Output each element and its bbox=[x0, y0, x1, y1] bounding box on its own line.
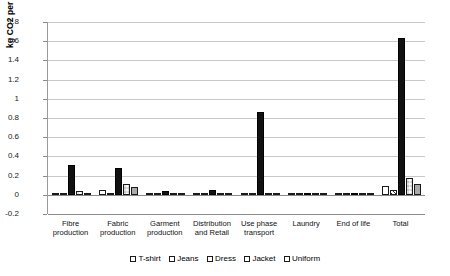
bar-jacket bbox=[359, 193, 366, 195]
bar-jeans bbox=[296, 193, 303, 195]
legend-swatch-icon bbox=[169, 256, 175, 262]
bar-jacket bbox=[312, 193, 319, 195]
bar-jacket bbox=[123, 184, 130, 195]
bar-group bbox=[237, 22, 284, 214]
legend-item-t-shirt[interactable]: T-shirt bbox=[130, 254, 161, 263]
bar-t-shirt bbox=[146, 193, 153, 195]
bar-t-shirt bbox=[241, 193, 248, 195]
bar-t-shirt bbox=[382, 186, 389, 195]
bar-uniform bbox=[273, 193, 280, 195]
legend-label: Dress bbox=[215, 254, 236, 263]
y-tick-label: 1.4 bbox=[0, 56, 19, 64]
bar-group bbox=[142, 22, 189, 214]
y-tick-label: 0 bbox=[0, 191, 19, 199]
y-tick-label: -0.2 bbox=[0, 210, 19, 218]
y-tick-label: 0.2 bbox=[0, 172, 19, 180]
bar-jeans bbox=[390, 190, 397, 195]
bar-t-shirt bbox=[99, 190, 106, 195]
bar-dress bbox=[257, 112, 264, 195]
y-tick-label: 1.8 bbox=[0, 18, 19, 26]
bar-jacket bbox=[406, 178, 413, 195]
bar-dress bbox=[304, 193, 311, 195]
bar-group bbox=[189, 22, 236, 214]
x-tick-label: Laundry bbox=[283, 219, 330, 228]
bar-jeans bbox=[343, 193, 350, 195]
legend-label: Uniform bbox=[292, 254, 320, 263]
bar-jacket bbox=[170, 193, 177, 195]
legend-item-dress[interactable]: Dress bbox=[207, 254, 236, 263]
x-tick-label: End of life bbox=[330, 219, 377, 228]
bar-jeans bbox=[201, 193, 208, 195]
bar-jacket bbox=[76, 191, 83, 194]
bar-jeans bbox=[107, 193, 114, 195]
legend-label: Jeans bbox=[177, 254, 198, 263]
legend-swatch-icon bbox=[244, 256, 250, 262]
bar-dress bbox=[351, 193, 358, 195]
legend-swatch-icon bbox=[207, 256, 213, 262]
x-tick-label: Fibreproduction bbox=[47, 219, 94, 238]
y-tick-mark bbox=[43, 214, 47, 215]
x-tick-label: Total bbox=[377, 219, 424, 228]
y-tick-label: 0.4 bbox=[0, 152, 19, 160]
bar-uniform bbox=[367, 193, 374, 195]
bar-uniform bbox=[84, 193, 91, 195]
bar-jacket bbox=[265, 193, 272, 195]
bar-dress bbox=[398, 38, 405, 194]
bar-group bbox=[95, 22, 142, 214]
bar-uniform bbox=[414, 184, 421, 195]
bar-uniform bbox=[131, 187, 138, 195]
bar-uniform bbox=[178, 193, 185, 195]
bar-t-shirt bbox=[193, 193, 200, 195]
bar-dress bbox=[209, 190, 216, 195]
y-tick-label: 0.6 bbox=[0, 133, 19, 141]
chart-legend: T-shirtJeansDressJacketUniform bbox=[0, 254, 450, 263]
bar-group bbox=[378, 22, 425, 214]
bar-jacket bbox=[217, 193, 224, 195]
legend-item-uniform[interactable]: Uniform bbox=[284, 254, 321, 263]
legend-label: Jacket bbox=[252, 254, 275, 263]
legend-swatch-icon bbox=[130, 256, 136, 262]
bar-dress bbox=[115, 168, 122, 195]
bar-dress bbox=[162, 191, 169, 195]
legend-label: T-shirt bbox=[138, 254, 160, 263]
y-tick-label: 0.8 bbox=[0, 114, 19, 122]
bar-group bbox=[331, 22, 378, 214]
bar-jeans bbox=[60, 193, 67, 195]
bar-t-shirt bbox=[52, 193, 59, 195]
y-tick-label: 1.2 bbox=[0, 76, 19, 84]
bar-uniform bbox=[225, 193, 232, 195]
bar-dress bbox=[68, 165, 75, 195]
y-tick-label: 1.6 bbox=[0, 37, 19, 45]
bar-t-shirt bbox=[335, 193, 342, 195]
bar-chart: kg CO2 per use 1.81.61.41.210.80.60.40.2… bbox=[0, 0, 450, 276]
plot-area bbox=[47, 22, 425, 214]
bar-uniform bbox=[320, 193, 327, 195]
gridline bbox=[48, 214, 425, 215]
x-tick-label: Garmentproduction bbox=[141, 219, 188, 238]
y-tick-label: 1 bbox=[0, 95, 19, 103]
legend-item-jacket[interactable]: Jacket bbox=[244, 254, 276, 263]
legend-item-jeans[interactable]: Jeans bbox=[169, 254, 199, 263]
bar-jeans bbox=[154, 193, 161, 195]
bar-group bbox=[48, 22, 95, 214]
x-tick-label: Use phasetransport bbox=[236, 219, 283, 238]
bar-group bbox=[284, 22, 331, 214]
x-tick-label: Distributionand Retail bbox=[188, 219, 235, 238]
legend-swatch-icon bbox=[284, 256, 290, 262]
x-tick-label: Fabricproduction bbox=[94, 219, 141, 238]
bar-jeans bbox=[249, 193, 256, 195]
bar-t-shirt bbox=[288, 193, 295, 195]
